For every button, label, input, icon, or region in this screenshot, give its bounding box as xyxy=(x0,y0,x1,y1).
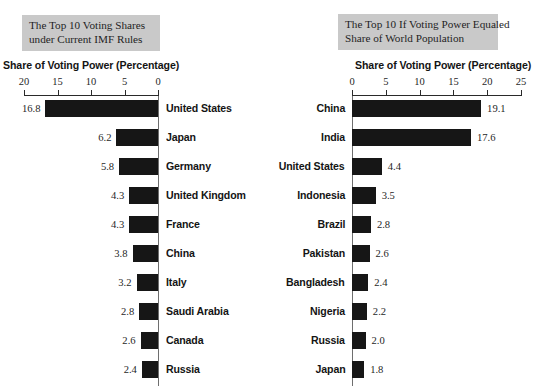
x-axis-label-right: Share of Voting Power (Percentage) xyxy=(355,59,531,71)
bar xyxy=(141,332,158,349)
bar xyxy=(352,216,371,233)
bar-category-label: Nigeria xyxy=(310,303,345,320)
bar xyxy=(45,100,158,117)
bar-value-label: 2.4 xyxy=(124,361,137,378)
x-tick-label: 15 xyxy=(52,76,63,87)
x-tick-label: 0 xyxy=(155,76,160,87)
bar xyxy=(352,332,366,349)
bar-category-label: United Kingdom xyxy=(166,187,246,204)
bar-value-label: 2.2 xyxy=(373,303,386,320)
bar-category-label: United States xyxy=(166,100,232,117)
x-tick-mark xyxy=(125,90,126,96)
chart-title-left-line-1: The Top 10 Voting Shares xyxy=(29,19,153,33)
x-tick-label: 10 xyxy=(86,76,97,87)
bar xyxy=(133,245,158,262)
chart-title-left: The Top 10 Voting Shares under Current I… xyxy=(22,15,160,51)
chart-title-left-line-2: under Current IMF Rules xyxy=(29,33,153,47)
x-tick-label: 5 xyxy=(122,76,127,87)
bar-value-label: 2.4 xyxy=(374,274,387,291)
bar-value-label: 2.8 xyxy=(377,216,390,233)
bar-category-label: Japan xyxy=(166,129,196,146)
bar-value-label: 1.8 xyxy=(370,361,383,378)
bar-value-label: 2.6 xyxy=(376,245,389,262)
bar-category-label: China xyxy=(316,100,345,117)
bar-category-label: United States xyxy=(279,158,345,175)
x-tick-mark xyxy=(24,90,25,96)
chart-title-right-line-2: Share of World Population xyxy=(345,32,491,46)
x-tick-mark xyxy=(487,90,488,96)
x-tick-label: 5 xyxy=(383,76,388,87)
bar-category-label: Saudi Arabia xyxy=(166,303,229,320)
x-tick-mark xyxy=(91,90,92,96)
bar-value-label: 2.0 xyxy=(372,332,385,349)
bar-value-label: 4.4 xyxy=(388,158,401,175)
bar xyxy=(352,100,481,117)
bar xyxy=(116,129,158,146)
bar xyxy=(139,303,158,320)
bar-category-label: Indonesia xyxy=(297,187,345,204)
bar-value-label: 3.5 xyxy=(382,187,395,204)
bar-category-label: Pakistan xyxy=(303,245,345,262)
chart-title-right: The Top 10 If Voting Power Equaled Share… xyxy=(338,14,498,50)
bar-value-label: 3.2 xyxy=(118,274,131,291)
bar-category-label: France xyxy=(166,216,200,233)
x-tick-mark xyxy=(386,90,387,96)
bar xyxy=(142,361,158,378)
x-tick-label: 15 xyxy=(448,76,459,87)
bar-value-label: 6.2 xyxy=(98,129,111,146)
x-tick-label: 20 xyxy=(19,76,30,87)
bar-category-label: India xyxy=(321,129,345,146)
bar-category-label: Germany xyxy=(166,158,211,175)
bar-category-label: Japan xyxy=(315,361,345,378)
bar xyxy=(352,245,370,262)
bar xyxy=(129,216,158,233)
bar-category-label: China xyxy=(166,245,195,262)
bar-category-label: Canada xyxy=(166,332,203,349)
bar xyxy=(352,361,364,378)
bar-category-label: Brazil xyxy=(317,216,345,233)
bar xyxy=(119,158,158,175)
x-tick-mark xyxy=(453,90,454,96)
bar-category-label: Bangladesh xyxy=(286,274,345,291)
bar-value-label: 2.8 xyxy=(121,303,134,320)
axis-rule xyxy=(352,95,521,96)
bar-value-label: 3.8 xyxy=(114,245,127,262)
bar-value-label: 2.6 xyxy=(122,332,135,349)
x-tick-mark xyxy=(420,90,421,96)
bar-value-label: 4.3 xyxy=(111,216,124,233)
bar-value-label: 5.8 xyxy=(101,158,114,175)
bar-value-label: 19.1 xyxy=(487,100,506,117)
bar xyxy=(352,158,382,175)
bar xyxy=(137,274,158,291)
bar xyxy=(352,129,471,146)
x-tick-label: 0 xyxy=(349,76,354,87)
bar-category-label: Russia xyxy=(311,332,345,349)
x-tick-mark xyxy=(521,90,522,96)
bar-value-label: 16.8 xyxy=(22,100,41,117)
bar-category-label: Italy xyxy=(166,274,186,291)
bar-value-label: 17.6 xyxy=(477,129,496,146)
bar-category-label: Russia xyxy=(166,361,200,378)
x-axis-label-left: Share of Voting Power (Percentage) xyxy=(3,59,179,71)
chart-title-right-line-1: The Top 10 If Voting Power Equaled xyxy=(345,18,491,32)
x-tick-mark xyxy=(58,90,59,96)
chart-panel-left: The Top 10 Voting Shares under Current I… xyxy=(0,0,270,381)
bar xyxy=(352,187,376,204)
x-tick-label: 10 xyxy=(414,76,425,87)
x-tick-label: 20 xyxy=(482,76,493,87)
bar xyxy=(352,303,367,320)
x-tick-label: 25 xyxy=(516,76,527,87)
bar xyxy=(352,274,368,291)
bar xyxy=(129,187,158,204)
bar-value-label: 4.3 xyxy=(111,187,124,204)
chart-panel-right: The Top 10 If Voting Power Equaled Share… xyxy=(270,0,537,381)
